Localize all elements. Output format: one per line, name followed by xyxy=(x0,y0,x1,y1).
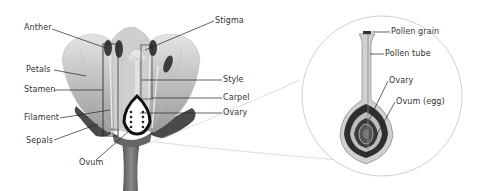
label-pollen-tube: Pollen tube xyxy=(385,50,431,58)
label-stigma: Stigma xyxy=(215,17,244,25)
label-ovum-egg: Ovum (egg) xyxy=(396,98,445,106)
label-stamen: Stamen xyxy=(24,86,56,94)
stem xyxy=(122,140,140,191)
label-filament: Filament xyxy=(24,114,59,122)
label-inset-ovary: Ovary xyxy=(389,77,413,85)
label-sepals: Sepals xyxy=(26,137,53,145)
label-ovum: Ovum xyxy=(79,159,103,167)
label-carpel: Carpel xyxy=(223,94,250,102)
label-anther: Anther xyxy=(24,24,52,32)
label-pollen-grain: Pollen grain xyxy=(391,28,439,36)
label-petals: Petals xyxy=(26,66,51,74)
flower-diagram: Anther Petals Stamen Filament Sepals Ovu… xyxy=(0,0,489,191)
label-style: Style xyxy=(223,76,244,84)
label-ovary: Ovary xyxy=(223,109,247,117)
